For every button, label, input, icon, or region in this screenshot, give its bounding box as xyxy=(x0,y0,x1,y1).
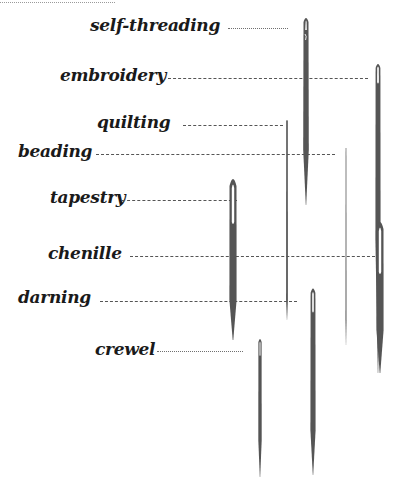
needle-self-threading-icon xyxy=(303,18,309,205)
needle-darning-icon xyxy=(310,289,315,476)
needle-quilting-icon xyxy=(286,120,288,320)
needle-crewel-icon xyxy=(258,339,261,477)
needle-beading-icon xyxy=(345,148,346,345)
needles-illustration xyxy=(0,0,395,486)
needle-tapestry-icon xyxy=(229,179,236,340)
